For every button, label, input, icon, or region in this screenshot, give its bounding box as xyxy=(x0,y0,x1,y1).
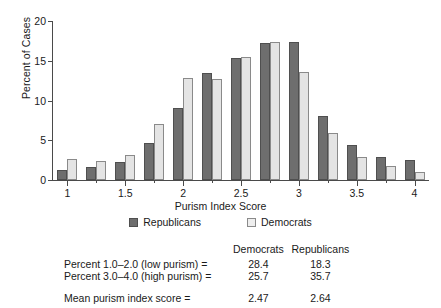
table-row: Percent 1.0–2.0 (low purism) = 28.4 18.3 xyxy=(64,258,351,271)
x-tick-label-4: 4 xyxy=(412,187,418,199)
legend-label-republicans: Republicans xyxy=(143,216,201,228)
x-tick-mark-minor-3.25 xyxy=(328,180,329,183)
bar-democrats-3.75 xyxy=(386,166,396,180)
header-blank-cell xyxy=(64,243,227,258)
bar-group xyxy=(227,21,256,180)
bar-group xyxy=(111,21,140,180)
table-row: Percent 3.0–4.0 (high purism) = 25.7 35.… xyxy=(64,270,351,283)
x-tick-mark-minor-2.75 xyxy=(270,180,271,183)
table-row: Mean purism index score = 2.47 2.64 xyxy=(64,292,351,305)
bar-republicans-1 xyxy=(57,170,67,180)
bar-group xyxy=(53,21,82,180)
x-tick-mark-1.5 xyxy=(125,180,126,186)
x-tick-label-2.5: 2.5 xyxy=(234,187,249,199)
bar-republicans-3.75 xyxy=(376,157,386,180)
row-label-high-purism: Percent 3.0–4.0 (high purism) = xyxy=(64,270,227,283)
bars-plot-area xyxy=(53,21,429,180)
bar-democrats-4 xyxy=(415,172,425,180)
x-tick-mark-3 xyxy=(299,180,300,186)
bar-republicans-2.25 xyxy=(202,73,212,180)
bar-republicans-1.5 xyxy=(115,162,125,180)
bar-democrats-2.25 xyxy=(212,79,222,180)
bar-republicans-3.5 xyxy=(347,145,357,180)
x-tick-mark-minor-2.25 xyxy=(212,180,213,183)
legend-swatch-republicans-icon xyxy=(129,218,138,227)
purism-index-chart-figure: Percent of Cases 05101520 11.522.533.54 … xyxy=(0,0,441,308)
bar-group xyxy=(342,21,371,180)
y-tick-label-5: 5 xyxy=(40,134,46,146)
mean-score-republicans-value: 2.64 xyxy=(289,292,351,305)
table-spacer-row xyxy=(64,283,351,292)
y-tick-label-10: 10 xyxy=(34,95,46,107)
bar-democrats-1.25 xyxy=(96,161,106,180)
legend-item-democrats: Democrats xyxy=(247,216,312,228)
bar-republicans-1.25 xyxy=(86,167,96,180)
bar-democrats-1.5 xyxy=(125,155,135,180)
x-tick-label-1: 1 xyxy=(65,187,71,199)
bar-republicans-4 xyxy=(405,160,415,180)
bar-democrats-3 xyxy=(299,72,309,180)
bar-group xyxy=(371,21,400,180)
column-header-republicans: Republicans xyxy=(289,243,351,258)
x-tick-label-2: 2 xyxy=(180,187,186,199)
column-header-democrats: Democrats xyxy=(227,243,289,258)
x-tick-label-1.5: 1.5 xyxy=(118,187,133,199)
table-header-row: Democrats Republicans xyxy=(64,243,351,258)
bar-group xyxy=(169,21,198,180)
bar-democrats-2.5 xyxy=(241,57,251,180)
row-label-mean-score: Mean purism index score = xyxy=(64,292,227,305)
bar-republicans-3.25 xyxy=(318,116,328,180)
bar-republicans-1.75 xyxy=(144,143,154,180)
x-tick-mark-minor-1.75 xyxy=(154,180,155,183)
y-tick-label-20: 20 xyxy=(34,15,46,27)
legend-item-republicans: Republicans xyxy=(129,216,201,228)
bar-group xyxy=(255,21,284,180)
x-tick-mark-2 xyxy=(183,180,184,186)
x-tick-mark-3.5 xyxy=(357,180,358,186)
y-axis-ticks: 05101520 xyxy=(22,14,54,186)
bar-group xyxy=(198,21,227,180)
mean-score-democrats-value: 2.47 xyxy=(227,292,289,305)
bar-democrats-3.25 xyxy=(328,133,338,180)
summary-stats-table: Democrats Republicans Percent 1.0–2.0 (l… xyxy=(64,243,351,304)
bar-democrats-3.5 xyxy=(357,157,367,180)
low-purism-republicans-value: 18.3 xyxy=(289,258,351,271)
bar-democrats-1 xyxy=(67,159,77,180)
bar-republicans-2 xyxy=(173,108,183,180)
row-label-low-purism: Percent 1.0–2.0 (low purism) = xyxy=(64,258,227,271)
bar-democrats-1.75 xyxy=(154,124,164,180)
bar-republicans-3 xyxy=(289,42,299,180)
bar-group xyxy=(140,21,169,180)
y-tick-label-15: 15 xyxy=(34,55,46,67)
x-tick-mark-minor-1.25 xyxy=(96,180,97,183)
x-tick-mark-4 xyxy=(415,180,416,186)
legend-swatch-democrats-icon xyxy=(247,218,256,227)
bar-democrats-2 xyxy=(183,78,193,180)
bar-republicans-2.75 xyxy=(260,43,270,180)
bar-group xyxy=(313,21,342,180)
y-tick-label-0: 0 xyxy=(40,174,46,186)
bar-group xyxy=(284,21,313,180)
x-tick-mark-minor-3.75 xyxy=(386,180,387,183)
x-tick-label-3: 3 xyxy=(296,187,302,199)
high-purism-democrats-value: 25.7 xyxy=(227,270,289,283)
x-tick-label-3.5: 3.5 xyxy=(349,187,364,199)
x-tick-mark-1 xyxy=(67,180,68,186)
x-axis-title: Purism Index Score xyxy=(0,200,441,212)
bar-democrats-2.75 xyxy=(270,42,280,180)
high-purism-republicans-value: 35.7 xyxy=(289,270,351,283)
low-purism-democrats-value: 28.4 xyxy=(227,258,289,271)
bar-group xyxy=(82,21,111,180)
x-tick-mark-2.5 xyxy=(241,180,242,186)
bar-republicans-2.5 xyxy=(231,58,241,180)
bar-group xyxy=(400,21,429,180)
chart-legend: Republicans Democrats xyxy=(0,216,441,228)
legend-label-democrats: Democrats xyxy=(261,216,312,228)
